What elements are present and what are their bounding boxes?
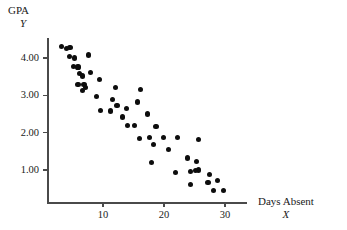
- y-tick-label: 1.00: [21, 164, 39, 175]
- data-point: [75, 64, 80, 69]
- data-point: [207, 172, 212, 177]
- y-tick-mark: [43, 169, 48, 170]
- y-tick-label: 4.00: [21, 52, 39, 63]
- y-tick-label: 3.00: [21, 89, 39, 100]
- data-point: [145, 111, 150, 116]
- data-point: [75, 82, 80, 87]
- data-point: [120, 114, 125, 119]
- data-point: [97, 77, 102, 82]
- data-point: [80, 73, 85, 78]
- data-point: [98, 108, 103, 113]
- data-point: [194, 159, 199, 164]
- data-point: [153, 124, 158, 129]
- data-point: [215, 178, 220, 183]
- data-point: [211, 188, 216, 193]
- data-point: [132, 123, 137, 128]
- x-tick-mark: [224, 202, 225, 207]
- data-point: [173, 170, 178, 175]
- data-point: [86, 52, 91, 57]
- data-point: [113, 85, 118, 90]
- data-point: [108, 108, 113, 113]
- data-point: [149, 160, 154, 165]
- y-tick-mark: [43, 95, 48, 96]
- data-point: [138, 87, 143, 92]
- x-tick-label: 20: [150, 209, 178, 220]
- data-point: [110, 97, 115, 102]
- data-point: [193, 168, 198, 173]
- data-point: [175, 135, 180, 140]
- data-point: [80, 88, 85, 93]
- data-point: [185, 155, 190, 160]
- data-point: [137, 136, 142, 141]
- x-tick-mark: [102, 202, 103, 207]
- scatter-plot-figure: GPA Y Days Absent X 1.002.003.004.00 102…: [0, 0, 347, 230]
- x-tick-label: 30: [211, 209, 239, 220]
- data-point: [94, 94, 99, 99]
- data-point: [161, 135, 166, 140]
- data-point: [166, 147, 171, 152]
- x-axis-line: [47, 202, 247, 204]
- y-tick-mark: [43, 57, 48, 58]
- y-tick-mark: [43, 132, 48, 133]
- x-tick-mark: [163, 202, 164, 207]
- data-point: [124, 106, 129, 111]
- data-point: [72, 55, 77, 60]
- y-tick-label: 2.00: [21, 127, 39, 138]
- data-point: [135, 99, 140, 104]
- data-point: [125, 123, 130, 128]
- data-point: [88, 70, 93, 75]
- data-point: [147, 135, 152, 140]
- data-point: [114, 103, 119, 108]
- data-point: [205, 180, 210, 185]
- x-tick-label: 10: [89, 209, 117, 220]
- y-axis-line: [47, 38, 49, 203]
- data-point: [188, 182, 193, 187]
- data-point: [221, 188, 226, 193]
- data-point: [67, 45, 72, 50]
- plot-area: 1.002.003.004.00 102030: [0, 0, 347, 230]
- data-point: [196, 137, 201, 142]
- data-point: [151, 142, 156, 147]
